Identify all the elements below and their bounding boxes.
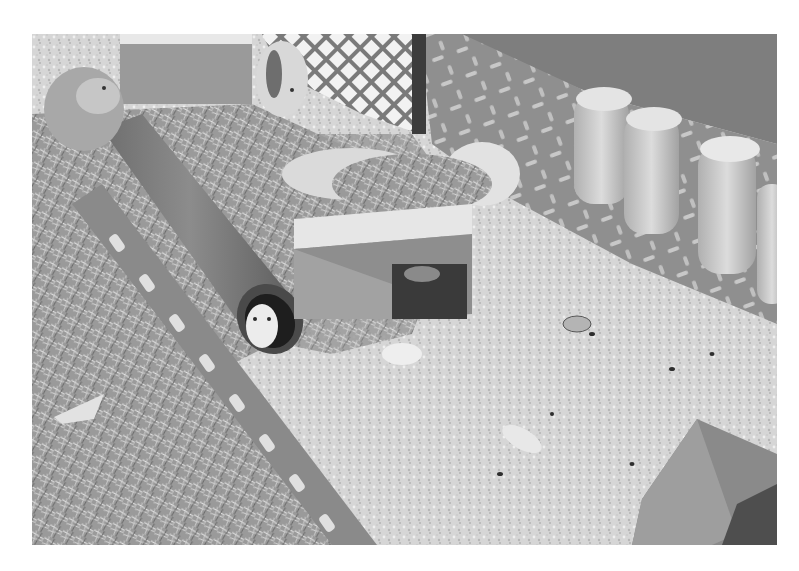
photo-scene xyxy=(32,34,777,545)
enclosure-photo xyxy=(32,34,777,545)
